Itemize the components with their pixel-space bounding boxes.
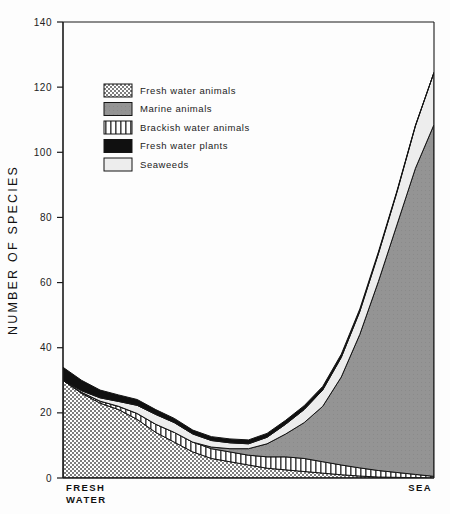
y-axis-tick-label: 20	[40, 407, 52, 418]
legend-label: Fresh water animals	[140, 85, 236, 96]
y-axis-tick-label: 100	[34, 147, 52, 158]
x-axis-label-left-line1: FRESH	[66, 482, 105, 493]
stacked-area-chart: 020406080100120140 NUMBER OF SPECIES FRE…	[0, 0, 450, 514]
y-axis-tick-label: 60	[40, 277, 52, 288]
legend-label: Brackish water animals	[140, 122, 250, 133]
y-axis-ticks: 020406080100120140	[34, 17, 63, 484]
legend-label: Fresh water plants	[140, 140, 228, 151]
y-axis-tick-label: 80	[40, 212, 52, 223]
figure-root: 020406080100120140 NUMBER OF SPECIES FRE…	[0, 0, 450, 514]
y-axis-tick-label: 40	[40, 342, 52, 353]
legend: Fresh water animalsMarine animalsBrackis…	[104, 84, 250, 171]
y-axis-tick-label: 120	[34, 82, 52, 93]
legend-swatch	[104, 121, 132, 134]
x-axis-label-left-line2: WATER	[66, 494, 107, 505]
y-axis-tick-label: 0	[46, 473, 52, 484]
legend-label: Marine animals	[140, 103, 212, 114]
legend-swatch	[104, 158, 132, 171]
legend-swatch	[104, 140, 132, 153]
legend-label: Seaweeds	[140, 159, 189, 170]
legend-swatch	[104, 103, 132, 116]
x-axis-label-right: SEA	[408, 482, 432, 493]
legend-swatch	[104, 84, 132, 97]
y-axis-title: NUMBER OF SPECIES	[6, 165, 20, 335]
y-axis-tick-label: 140	[34, 17, 52, 28]
